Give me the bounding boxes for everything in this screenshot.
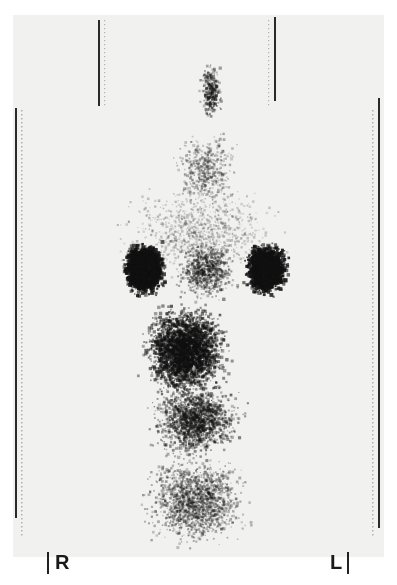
scintigraphy-counts [13, 15, 384, 557]
scan-image [13, 15, 384, 557]
left-side-label: L [330, 552, 342, 572]
upper-left-frame-line [98, 20, 100, 106]
left-frame-line [15, 108, 17, 518]
l-marker-line [347, 552, 349, 574]
upper-right-frame-line [274, 17, 276, 101]
right-frame-line [378, 98, 380, 528]
r-marker-line [47, 552, 49, 574]
right-side-label: R [55, 552, 69, 572]
